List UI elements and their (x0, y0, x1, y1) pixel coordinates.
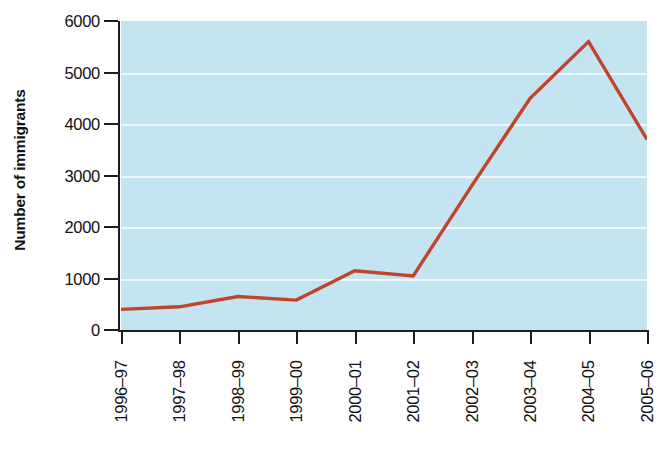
y-axis-tick-label: 5000 (38, 63, 100, 82)
x-axis-tick-label: 2001–02 (402, 348, 424, 444)
y-axis-line (118, 21, 120, 332)
x-axis-tick-labels: 1996–971997–981998–991999–002000–012001–… (121, 348, 647, 448)
immigration-line-chart: Number of immigrants 0100020003000400050… (0, 0, 669, 454)
y-axis-tick-mark (104, 123, 118, 125)
x-axis-tick-label: 2002–03 (461, 348, 483, 444)
x-axis-tick-mark (238, 332, 240, 344)
x-axis-tick-label-text: 2005–06 (638, 360, 657, 422)
y-axis-tick-mark (104, 72, 118, 74)
x-axis-tick-label-text: 1999–00 (287, 360, 306, 422)
x-axis-tick-label-text: 2001–02 (404, 360, 423, 422)
y-axis-tick-label: 1000 (38, 269, 100, 288)
x-axis-tick-label: 2000–01 (344, 348, 366, 444)
y-axis-tick-mark (104, 278, 118, 280)
x-axis-tick-label-text: 2000–01 (345, 360, 364, 422)
x-axis-tick-label: 2003–04 (519, 348, 541, 444)
x-axis-tick-label-text: 1997–98 (170, 360, 189, 422)
x-axis-tick-label: 1998–99 (227, 348, 249, 444)
x-axis-tick-mark (530, 332, 532, 344)
x-axis-tick-mark (647, 332, 649, 344)
x-axis-tick-label: 1996–97 (110, 348, 132, 444)
x-axis-tick-marks (121, 332, 647, 346)
x-axis-tick-label-text: 1996–97 (112, 360, 131, 422)
y-axis-tick-mark (104, 175, 118, 177)
y-axis-tick-label: 4000 (38, 115, 100, 134)
x-axis-tick-label: 1997–98 (168, 348, 190, 444)
y-axis-title: Number of immigrants (0, 0, 40, 340)
y-axis-tick-mark (104, 329, 118, 331)
y-axis-tick-label: 0 (38, 321, 100, 340)
y-axis-title-label: Number of immigrants (11, 89, 29, 250)
x-axis-tick-label: 1999–00 (285, 348, 307, 444)
y-axis-tick-mark (104, 20, 118, 22)
x-axis-tick-mark (413, 332, 415, 344)
x-axis-tick-mark (589, 332, 591, 344)
plot-area (121, 21, 647, 330)
x-axis-tick-mark (121, 332, 123, 344)
x-axis-tick-label: 2004–05 (578, 348, 600, 444)
x-axis-tick-label-text: 1998–99 (228, 360, 247, 422)
y-axis-tick-label: 2000 (38, 218, 100, 237)
y-axis-tick-label: 6000 (38, 12, 100, 31)
x-axis-tick-mark (355, 332, 357, 344)
x-axis-tick-label-text: 2004–05 (579, 360, 598, 422)
y-axis-tick-labels: 0100020003000400050006000 (38, 0, 100, 340)
x-axis-tick-label-text: 2003–04 (521, 360, 540, 422)
x-axis-tick-mark (179, 332, 181, 344)
data-series-line (121, 21, 647, 330)
y-axis-tick-label: 3000 (38, 166, 100, 185)
x-axis-tick-mark (296, 332, 298, 344)
x-axis-tick-label-text: 2002–03 (462, 360, 481, 422)
y-axis-tick-mark (104, 226, 118, 228)
x-axis-tick-label: 2005–06 (636, 348, 658, 444)
x-axis-tick-mark (472, 332, 474, 344)
